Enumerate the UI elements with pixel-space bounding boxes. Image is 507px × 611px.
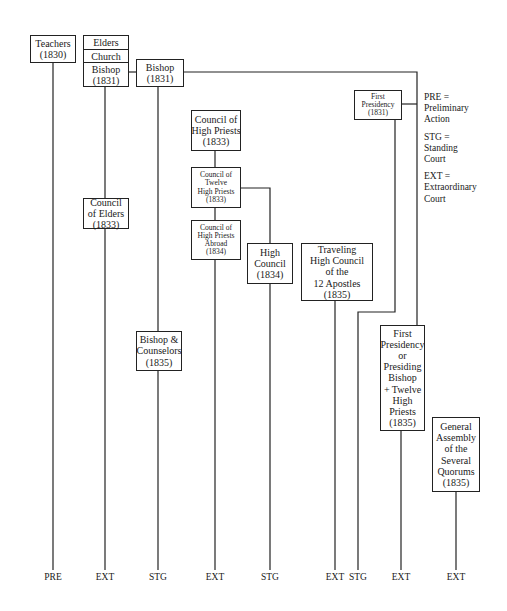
node-first-presidency-1831: First Presidency (1831) <box>354 90 402 120</box>
node-text: First <box>393 328 411 339</box>
node-text: Presidency <box>381 339 425 350</box>
bottom-label-ext: EXT <box>206 572 224 582</box>
node-year: (1833) <box>203 136 230 147</box>
node-text: of Elders <box>88 208 124 219</box>
node-text: Traveling <box>318 244 357 255</box>
node-year: (1833) <box>93 219 120 230</box>
node-council-twelve-high-priests: Council of Twelve High Priests (1833) <box>191 167 241 208</box>
node-year: (1831) <box>147 73 174 84</box>
church-court-diagram: Teachers (1830) Elders Church Bishop (18… <box>0 0 507 611</box>
node-text: High <box>393 395 413 406</box>
node-year: (1834) <box>206 248 226 256</box>
node-church-bishop: Bishop (1831) <box>84 63 128 86</box>
node-text: Bishop <box>92 64 120 75</box>
node-bishop-1831: Bishop (1831) <box>136 59 184 87</box>
node-text: Counselors <box>137 345 182 356</box>
bottom-label-ext: EXT <box>447 572 465 582</box>
node-year: (1831) <box>368 109 388 117</box>
legend-entry-ext: EXT = Extraordinary Court <box>424 171 504 205</box>
legend-entry-stg: STG = Standing Court <box>424 132 504 166</box>
bottom-label-stg: STG <box>149 572 167 582</box>
bottom-label-pre: PRE <box>44 572 61 582</box>
node-text: of the <box>325 266 348 277</box>
node-text: General <box>440 421 472 432</box>
node-text: Presiding <box>384 361 422 372</box>
legend: PRE = Preliminary Action STG = Standing … <box>424 92 504 211</box>
node-general-assembly: General Assembly of the Several Quorums … <box>432 417 480 492</box>
node-council-of-elders: Council of Elders (1833) <box>83 198 129 229</box>
node-text: Bishop <box>146 62 174 73</box>
node-text: + Twelve <box>384 384 421 395</box>
bottom-label-ext: EXT <box>96 572 114 582</box>
bottom-label-stg: STG <box>261 572 279 582</box>
legend-entry-pre: PRE = Preliminary Action <box>424 92 504 126</box>
node-text: 12 Apostles <box>314 278 361 289</box>
legend-abbr: PRE = <box>424 92 504 103</box>
node-year: (1831) <box>93 75 120 86</box>
node-text: Assembly <box>436 432 476 443</box>
node-traveling-high-council: Traveling High Council of the 12 Apostle… <box>301 243 373 301</box>
node-year: (1835) <box>443 477 470 488</box>
node-year: (1835) <box>389 417 416 428</box>
node-text: Quorums <box>437 466 474 477</box>
node-elders: Elders <box>84 36 128 50</box>
node-council-high-priests: Council of High Priests (1833) <box>191 110 241 151</box>
legend-text: Preliminary <box>424 103 504 114</box>
legend-text: Extraordinary <box>424 182 504 193</box>
node-text: Bishop & <box>140 334 179 345</box>
bottom-label-ext: EXT <box>326 572 344 582</box>
node-text: Priests <box>389 406 416 417</box>
bottom-label-stg: STG <box>349 572 367 582</box>
node-teachers: Teachers (1830) <box>30 35 76 63</box>
node-year: (1834) <box>257 269 284 280</box>
node-year: (1830) <box>40 49 67 60</box>
node-text: Elders <box>93 37 119 48</box>
node-text: High Council <box>310 255 364 266</box>
bottom-label-ext: EXT <box>392 572 410 582</box>
legend-text: Standing <box>424 143 504 154</box>
node-year: (1835) <box>146 357 173 368</box>
node-year: (1835) <box>324 289 351 300</box>
legend-text: Action <box>424 114 504 125</box>
node-text: High Priests <box>191 125 240 136</box>
node-text: Church <box>91 51 120 62</box>
legend-text: Court <box>424 154 504 165</box>
node-text: High <box>260 247 280 258</box>
legend-text: Court <box>424 194 504 205</box>
node-text: of the <box>444 443 467 454</box>
legend-abbr: EXT = <box>424 171 504 182</box>
node-first-presidency-or-presiding-bishop: First Presidency or Presiding Bishop + T… <box>380 325 425 431</box>
node-text: Bishop <box>388 372 416 383</box>
node-year: (1833) <box>206 196 226 204</box>
node-council-high-priests-abroad: Council of High Priests Abroad (1834) <box>191 220 241 260</box>
node-text: or <box>398 350 406 361</box>
node-elders-church-bishop: Elders Church Bishop (1831) <box>83 35 129 87</box>
legend-abbr: STG = <box>424 132 504 143</box>
node-church: Church <box>84 50 128 63</box>
node-text: Council <box>90 197 122 208</box>
node-text: Council <box>254 258 286 269</box>
node-text: Several <box>441 455 471 466</box>
node-bishop-counselors: Bishop & Counselors (1835) <box>136 331 182 371</box>
node-text: Council of <box>195 114 238 125</box>
node-text: Teachers <box>35 38 70 49</box>
node-high-council: High Council (1834) <box>247 243 293 284</box>
